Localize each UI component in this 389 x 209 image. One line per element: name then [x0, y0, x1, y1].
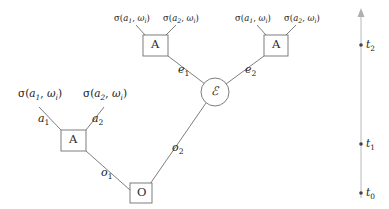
timeline-label-t1: t1 — [366, 138, 375, 149]
node-label-environment: ℰ — [211, 85, 218, 97]
edge-line-sigma-tl-1 — [136, 25, 145, 35]
edge-label-e2: e2 — [245, 64, 256, 75]
timeline-dot-t2 — [359, 43, 363, 47]
timeline-label-t2: t2 — [366, 39, 375, 50]
timeline-arrowhead-icon — [358, 8, 365, 17]
sigma-label-left-1: σ(a1, ωi) — [18, 88, 62, 99]
node-label-agent-left: A — [69, 134, 77, 146]
sigma-label-top-right-2: σ(a2, ωi) — [284, 14, 320, 23]
node-label-agent-top-left: A — [151, 39, 159, 51]
sigma-label-top-right-1: σ(a1, ωi) — [235, 14, 271, 23]
edge-line-sigma-tr-2 — [286, 25, 296, 35]
edge-line-sigma-tl-2 — [166, 25, 176, 35]
edge-label-a2: a2 — [92, 113, 103, 124]
diagram-canvas: O A ℰ A A o1 o2 e1 e2 a1 a2 σ(a1, ωi) σ(… — [0, 0, 389, 209]
sigma-label-top-left-2: σ(a2, ωi) — [163, 14, 199, 23]
timeline-dot-t1 — [359, 142, 363, 146]
edge-label-o2: o2 — [172, 142, 183, 153]
node-label-origin: O — [137, 187, 146, 199]
node-label-agent-top-right: A — [272, 39, 280, 51]
diagram-graphics — [0, 0, 389, 209]
edge-line-sigma-tr-1 — [257, 25, 266, 35]
edge-label-o1: o1 — [101, 167, 112, 178]
edge-label-a1: a1 — [38, 113, 49, 124]
timeline-dot-t0 — [359, 191, 363, 195]
sigma-label-top-left-1: σ(a1, ωi) — [114, 14, 150, 23]
edge-label-e1: e1 — [178, 64, 189, 75]
timeline-label-t0: t0 — [366, 187, 375, 198]
sigma-label-left-2: σ(a2, ωi) — [83, 88, 127, 99]
